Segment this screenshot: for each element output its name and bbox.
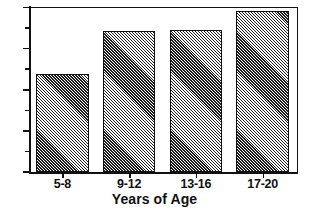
bar-17-20[interactable] — [236, 11, 289, 172]
x-tick-label-17-20: 17-20 — [247, 178, 278, 191]
x-axis-title: Years of Age — [0, 192, 309, 206]
bar-5-8[interactable] — [36, 74, 89, 172]
x-tick-label-5-8: 5-8 — [54, 178, 71, 191]
bar-chart: 80 60 40 20 0 5-8 9-12 13-16 17-20 Years… — [0, 0, 309, 209]
bar-13-16[interactable] — [170, 30, 223, 172]
x-tick-label-13-16: 13-16 — [180, 178, 211, 191]
x-tick-label-9-12: 9-12 — [117, 178, 141, 191]
bar-9-12[interactable] — [103, 31, 156, 172]
